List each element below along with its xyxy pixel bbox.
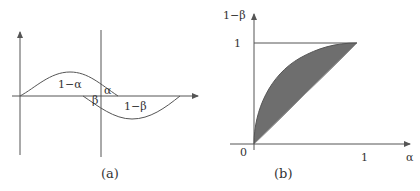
label-alpha: α — [104, 84, 112, 97]
panel-a-caption: (a) — [101, 166, 119, 181]
panel-b-x-axis-label: α — [406, 151, 414, 164]
panel-a: 1−α α β 1−β (a) — [12, 30, 198, 181]
panel-b-y-axis-label: 1−β — [223, 9, 246, 22]
label-one-minus-beta: 1−β — [124, 100, 147, 113]
panel-b-caption: (b) — [274, 166, 292, 181]
label-one-minus-alpha: 1−α — [58, 78, 82, 91]
panel-b-x-tick-1: 1 — [361, 151, 368, 164]
figure-canvas: 1−α α β 1−β (a) 1−β 1 0 1 α (b) — [0, 0, 420, 191]
panel-b-origin-label: 0 — [240, 146, 247, 159]
panel-b: 1−β 1 0 1 α (b) — [223, 9, 414, 181]
panel-b-y-tick-1: 1 — [234, 37, 241, 50]
label-beta: β — [92, 94, 98, 107]
